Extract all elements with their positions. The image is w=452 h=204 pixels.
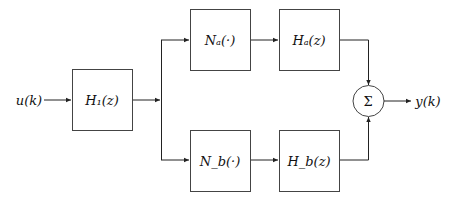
ha-to-sum-arrow bbox=[340, 40, 369, 85]
block-na-label: Nₐ(·) bbox=[205, 33, 236, 48]
block-nb-label: N_b(·) bbox=[200, 154, 240, 169]
input-label: u(k) bbox=[16, 93, 42, 108]
block-h1-label: H₁(z) bbox=[85, 93, 119, 108]
diagram-wires bbox=[0, 0, 452, 204]
summer-label: Σ bbox=[363, 94, 372, 109]
hb-to-sum-arrow bbox=[340, 117, 369, 160]
block-ha-label: Hₐ(z) bbox=[292, 33, 325, 48]
output-label: y(k) bbox=[415, 94, 440, 109]
block-hb-label: H_b(z) bbox=[287, 154, 330, 169]
block-diagram: u(k) H₁(z) Nₐ(·) Hₐ(z) N_b(·) H_b(z) Σ y… bbox=[0, 0, 452, 204]
